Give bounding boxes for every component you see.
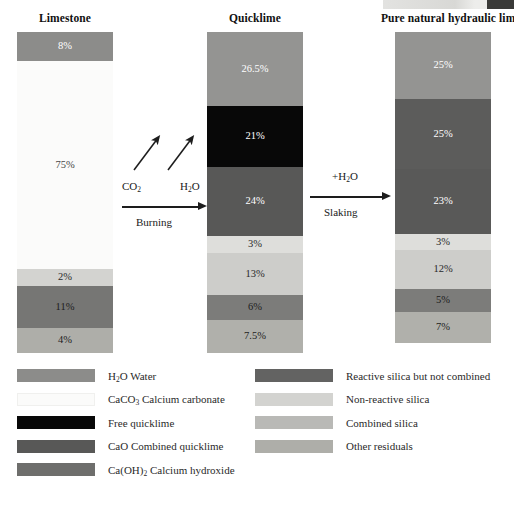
legend-label-reactive_silica_not_combined: Reactive silica but not combined [346,370,490,382]
legend-swatch-free_quicklime [17,416,95,429]
legend-label-calcium_carbonate: CaCO3 Calcium carbonate [108,393,225,405]
segment-limestone-non_reactive_silica: 2% [17,269,113,286]
legend-item-free_quicklime: Free quicklime [17,416,174,429]
segment-hydraulic_lime-water: 25% [395,32,491,99]
legend-item-combined_quicklime: CaO Combined quicklime [17,440,223,453]
segment-value-label: 23% [433,196,452,207]
legend-swatch-combined_quicklime [17,440,95,453]
legend-swatch-calcium_carbonate [17,393,95,406]
slaking-arrow-shaft [310,196,384,198]
legend-item-other_residuals: Other residuals [255,440,413,453]
segment-value-label: 25% [433,60,452,71]
segment-quicklime-reactive_silica: 6% [207,295,303,320]
segment-hydraulic_lime-combined_quicklime: 23% [395,169,491,234]
segment-value-label: 4% [58,335,72,346]
released-gas-arrows-icon [130,130,202,174]
column-title-hydraulic-lime: Pure natural hydraulic lime [381,12,505,24]
label-h2o-released: H2O [180,180,200,192]
legend-item-combined_silica: Combined silica [255,416,418,429]
stacked-bar-quicklime: 26.5%21%24%3%13%6%7.5% [207,32,303,353]
legend-item-non_reactive_silica: Non-reactive silica [255,393,429,406]
segment-quicklime-water: 26.5% [207,32,303,106]
segment-value-label: 12% [433,264,452,275]
lime-cycle-diagram: Limestone Quicklime Pure natural hydraul… [0,0,514,508]
segment-limestone-reactive_silica: 11% [17,286,113,328]
column-title-quicklime: Quicklime [207,12,303,24]
segment-quicklime-free_quicklime: 21% [207,106,303,167]
legend-label-non_reactive_silica: Non-reactive silica [346,393,429,405]
burning-arrow-head [198,202,207,210]
legend-swatch-non_reactive_silica [255,393,333,406]
segment-value-label: 2% [58,272,72,283]
segment-value-label: 13% [245,269,264,280]
stacked-bar-hydraulic_lime: 25%25%23%3%12%5%7% [395,32,491,343]
segment-hydraulic_lime-non_reactive_silica: 3% [395,234,491,250]
legend-item-reactive_silica_not_combined: Reactive silica but not combined [255,369,490,382]
burning-arrow-shaft [122,206,200,208]
segment-value-label: 24% [245,196,264,207]
legend-swatch-water [17,369,95,382]
segment-limestone-other_residuals: 4% [17,328,113,353]
legend-label-calcium_hydroxide: Ca(OH)2 Calcium hydroxide [108,464,235,476]
segment-value-label: 75% [55,160,74,171]
column-title-limestone: Limestone [17,12,113,24]
segment-value-label: 5% [436,295,450,306]
legend-swatch-other_residuals [255,440,333,453]
legend-item-water: H2O Water [17,369,156,382]
legend-swatch-calcium_hydroxide [17,463,95,476]
legend-label-water: H2O Water [108,370,156,382]
stacked-bar-limestone: 8%75%2%11%4% [17,32,113,353]
legend-label-combined_quicklime: CaO Combined quicklime [108,440,223,452]
label-slaking: Slaking [324,206,358,218]
segment-limestone-calcium_carbonate: 75% [17,61,113,269]
legend-label-other_residuals: Other residuals [346,440,413,452]
label-co2: CO2 [122,180,141,192]
legend-item-calcium_hydroxide: Ca(OH)2 Calcium hydroxide [17,463,235,476]
segment-value-label: 6% [248,302,262,313]
label-burning: Burning [136,216,172,228]
segment-value-label: 8% [58,41,72,52]
segment-value-label: 25% [433,129,452,140]
segment-hydraulic_lime-calcium_hydroxide: 25% [395,99,491,169]
segment-quicklime-non_reactive_silica: 3% [207,236,303,253]
segment-value-label: 3% [248,239,262,250]
segment-value-label: 21% [245,131,264,142]
segment-quicklime-other_residuals: 7.5% [207,320,303,353]
slaking-arrow-head [382,192,391,200]
legend-item-calcium_carbonate: CaCO3 Calcium carbonate [17,393,225,406]
legend-label-free_quicklime: Free quicklime [108,417,174,429]
segment-value-label: 7% [436,322,450,333]
segment-value-label: 26.5% [241,64,268,75]
label-h2o-added: +H2O [332,170,358,182]
segment-hydraulic_lime-other_residuals: 7% [395,312,491,343]
scan-artifact-chip [487,0,514,9]
legend-label-combined_silica: Combined silica [346,417,418,429]
segment-value-label: 7.5% [244,331,266,342]
segment-quicklime-combined_silica: 13% [207,253,303,295]
segment-value-label: 3% [436,237,450,248]
legend-swatch-combined_silica [255,416,333,429]
segment-hydraulic_lime-reactive_silica: 5% [395,289,491,312]
legend-swatch-reactive_silica_not_combined [255,369,333,382]
segment-value-label: 11% [56,302,75,313]
segment-hydraulic_lime-combined_silica: 12% [395,250,491,289]
segment-quicklime-combined_quicklime: 24% [207,167,303,236]
segment-limestone-water: 8% [17,32,113,61]
